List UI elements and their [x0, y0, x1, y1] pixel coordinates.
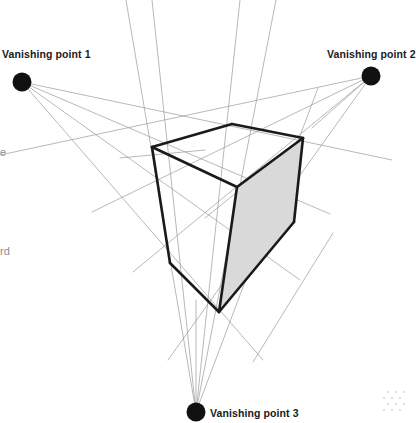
clipped-text-fragment-upper: e [0, 146, 6, 159]
construction-line-vp3-b [152, 0, 196, 412]
vanishing-point-1-label: Vanishing point 1 [2, 48, 91, 60]
box-edge-top-left-ridge [152, 124, 232, 147]
vanishing-point-2-label: Vanishing point 2 [327, 48, 416, 60]
construction-lines [0, 0, 392, 412]
construction-line-vp1-a [22, 82, 392, 160]
box-edge-left-vertical [152, 147, 170, 263]
vanishing-point-3-label: Vanishing point 3 [210, 407, 299, 419]
vanishing-point-2-dot[interactable] [362, 67, 381, 86]
vanishing-point-1-dot[interactable] [13, 73, 32, 92]
corner-dot-texture [383, 391, 405, 411]
box-edge-bottom-left [170, 263, 219, 312]
construction-line-vp2-b [92, 76, 371, 212]
construction-line-upper-right [312, 76, 371, 128]
construction-line-vp2-a [0, 76, 371, 155]
vanishing-point-3-dot[interactable] [187, 403, 206, 422]
box-edge-top-inner-left [152, 147, 237, 187]
clipped-text-fragment-lower: rd [0, 245, 10, 258]
